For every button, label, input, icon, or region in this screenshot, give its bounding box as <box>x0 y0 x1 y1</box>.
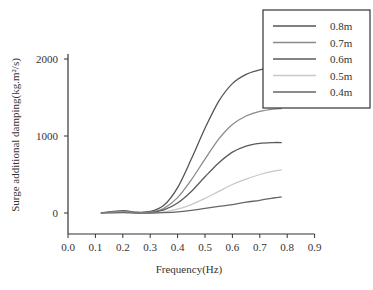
series-line-0.7m <box>101 109 282 213</box>
y-tick-label: 2000 <box>36 53 59 65</box>
legend-label: 0.8m <box>330 20 353 32</box>
x-tick-label: 0.1 <box>89 241 103 253</box>
x-tick-label: 0.8 <box>280 241 294 253</box>
x-tick-label: 0.3 <box>143 241 157 253</box>
y-tick-label: 1000 <box>36 130 59 142</box>
legend-label: 0.5m <box>330 70 353 82</box>
legend: 0.8m0.7m0.6m0.5m0.4m <box>263 10 370 108</box>
legend-label: 0.6m <box>330 53 353 65</box>
x-tick-label: 0.6 <box>226 241 240 253</box>
x-tick-label: 0.9 <box>308 241 322 253</box>
y-axis-label: Surge additional damping(kg.m²/s) <box>9 58 22 212</box>
x-tick-label: 0.7 <box>253 241 267 253</box>
y-tick-label: 0 <box>53 207 59 219</box>
x-tick-label: 0.2 <box>116 241 130 253</box>
series-line-0.6m <box>101 142 282 213</box>
x-axis-label: Frequency(Hz) <box>156 263 223 276</box>
plot-area <box>101 68 282 213</box>
x-tick-label: 0.0 <box>61 241 75 253</box>
legend-label: 0.4m <box>330 86 353 98</box>
x-tick-label: 0.4 <box>171 241 185 253</box>
line-chart: 0100020000.00.10.20.30.40.50.60.70.80.9 … <box>0 0 373 290</box>
legend-label: 0.7m <box>330 37 353 49</box>
x-tick-label: 0.5 <box>198 241 212 253</box>
